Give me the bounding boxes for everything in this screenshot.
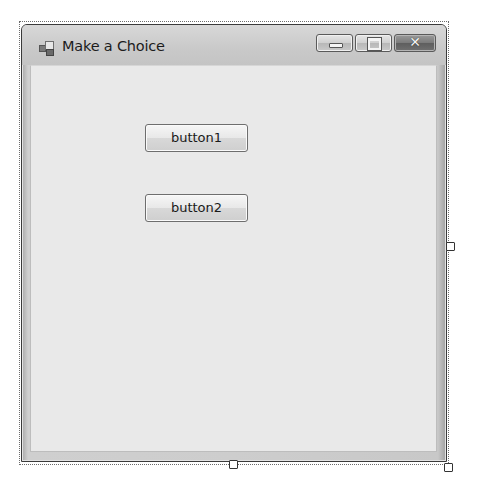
window-title: Make a Choice	[62, 38, 165, 54]
maximize-button[interactable]	[355, 34, 392, 52]
button1[interactable]: button1	[145, 124, 248, 152]
minimize-icon	[329, 43, 343, 48]
form-client-area: button1 button2	[30, 65, 437, 452]
resize-handle-bottom-right[interactable]	[444, 463, 453, 472]
form-icon	[39, 41, 55, 55]
close-button[interactable]: ✕	[394, 34, 436, 52]
designer-canvas: Make a Choice ✕ button1 button2	[0, 0, 477, 489]
title-bar[interactable]: Make a Choice ✕	[22, 25, 446, 65]
close-icon: ✕	[395, 34, 435, 50]
caption-buttons: ✕	[316, 34, 436, 52]
resize-handle-bottom[interactable]	[229, 460, 238, 469]
resize-handle-right[interactable]	[446, 242, 455, 251]
maximize-icon	[368, 38, 381, 50]
form-window: Make a Choice ✕ button1 button2	[21, 24, 447, 462]
minimize-button[interactable]	[316, 34, 353, 52]
button2[interactable]: button2	[145, 194, 248, 222]
